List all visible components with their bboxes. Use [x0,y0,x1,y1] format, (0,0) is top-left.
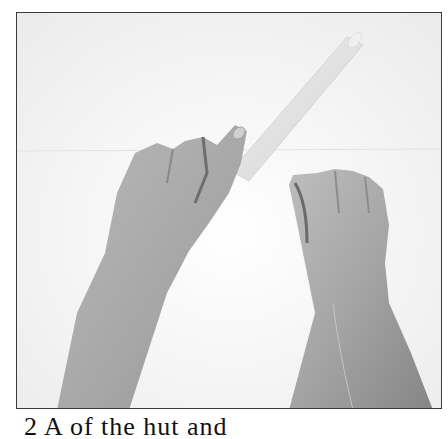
hands-with-rod-photo [17,13,442,409]
figure-caption: 2 A of the hut and [24,414,228,439]
figure-frame [16,12,442,409]
